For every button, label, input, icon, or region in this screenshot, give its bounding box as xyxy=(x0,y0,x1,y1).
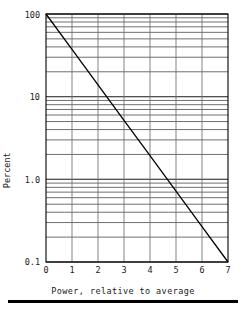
x-tick-label-6: 6 xyxy=(193,266,211,275)
y-tick-label-10: 10 xyxy=(2,93,40,102)
x-tick-label-3: 3 xyxy=(115,266,133,275)
x-tick-label-1: 1 xyxy=(63,266,81,275)
y-axis-title: Percent xyxy=(3,139,12,201)
footer-rule xyxy=(8,300,238,303)
y-axis-title-wrap: Percent xyxy=(0,140,14,210)
x-tick-label-0: 0 xyxy=(37,266,55,275)
x-tick-label-7: 7 xyxy=(219,266,237,275)
y-tick-label-0.1: 0.1 xyxy=(2,258,40,267)
x-tick-label-4: 4 xyxy=(141,266,159,275)
y-tick-label-100: 100 xyxy=(2,11,40,20)
x-tick-label-5: 5 xyxy=(167,266,185,275)
x-tick-label-2: 2 xyxy=(89,266,107,275)
x-axis-title: Power, relative to average xyxy=(0,286,246,296)
chart-figure: 100 10 1.0 0.1 0 1 2 3 4 5 6 7 Percent P… xyxy=(0,0,246,310)
